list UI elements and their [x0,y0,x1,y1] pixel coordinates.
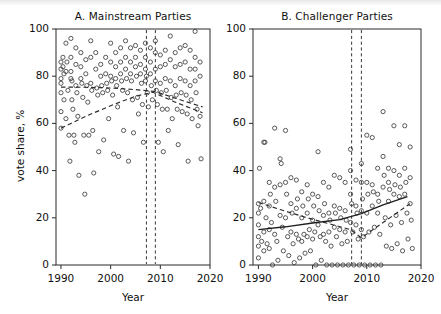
trend-line-A [61,92,203,128]
x-tick-label-A-2020: 2020 [190,272,230,284]
y-tick-label-B-100: 100 [213,22,246,34]
trend-line-A [61,87,203,107]
x-tick-label-B-2010: 2010 [347,272,387,284]
y-tick-label-A-80: 80 [16,69,49,81]
x-tick-label-B-1990: 1990 [238,272,278,284]
y-tick-label-B-40: 40 [213,164,246,176]
y-tick-label-A-40: 40 [16,164,49,176]
y-tick-label-A-20: 20 [16,211,49,223]
y-tick-label-A-60: 60 [16,116,49,128]
x-tick-label-B-2000: 2000 [293,272,333,284]
x-tick-label-A-1990: 1990 [41,272,81,284]
trend-line-B [258,202,410,237]
panel-b-x-axis-label: Year [253,291,421,303]
y-tick-label-A-100: 100 [16,22,49,34]
scatter-points-A [59,29,203,196]
y-tick-label-B-20: 20 [213,211,246,223]
y-tick-label-B-80: 80 [213,69,246,81]
y-tick-label-A-0: 0 [16,258,49,270]
x-tick-label-A-2000: 2000 [91,272,131,284]
scatter-points-B [256,110,414,268]
panel-b-title: B. Challenger Parties [253,10,421,22]
y-tick-label-B-0: 0 [213,258,246,270]
figure-canvas: vote share, % A. Mainstream Parties Year… [0,0,441,314]
x-tick-label-A-2010: 2010 [140,272,180,284]
panel-a-title: A. Mainstream Parties [56,10,210,22]
panel-a-x-axis-label: Year [56,291,210,303]
y-tick-label-B-60: 60 [213,116,246,128]
top-edge-artifact [0,0,441,5]
trend-line-B [258,197,407,230]
x-tick-label-B-2020: 2020 [401,272,441,284]
